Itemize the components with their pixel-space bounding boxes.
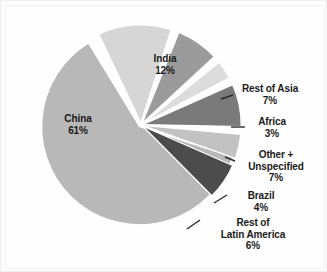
pie-label-rest-latin-pct: 6% [203, 240, 303, 252]
pie-label-india: India 12% [135, 53, 195, 76]
pie-label-rest-latin-name-line1: Rest of [236, 217, 269, 228]
pie-label-africa: Africa 3% [239, 116, 305, 139]
pie-label-other-name-line1: Other + [259, 149, 294, 160]
leader-line-rest-latin [187, 220, 200, 229]
pie-label-china-pct: 61% [48, 125, 108, 137]
pie-label-rest-latin-name-line2: Latin America [203, 229, 303, 241]
pie-label-rest-of-asia-pct: 7% [227, 95, 313, 107]
leader-line-brazil [214, 195, 227, 203]
pie-label-china: China 61% [48, 113, 108, 136]
chart-frame: China 61% India 12% Rest of Asia 7% Afri… [0, 0, 327, 272]
pie-label-brazil: Brazil 4% [230, 190, 292, 213]
pie-label-rest-of-asia-name: Rest of Asia [242, 83, 298, 94]
pie-label-brazil-pct: 4% [230, 202, 292, 214]
pie-label-africa-pct: 3% [239, 128, 305, 140]
pie-label-rest-of-latin-america: Rest of Latin America 6% [203, 217, 303, 252]
pie-label-africa-name: Africa [258, 116, 286, 127]
pie-label-other-unspecified: Other + Unspecified 7% [233, 149, 319, 184]
pie-label-rest-of-asia: Rest of Asia 7% [227, 83, 313, 106]
pie-label-brazil-name: Brazil [248, 190, 275, 201]
pie-label-other-name-line2: Unspecified [233, 161, 319, 173]
pie-label-india-pct: 12% [135, 65, 195, 77]
pie-label-india-name: India [154, 53, 177, 64]
pie-label-other-pct: 7% [233, 172, 319, 184]
pie-label-china-name: China [64, 113, 91, 124]
